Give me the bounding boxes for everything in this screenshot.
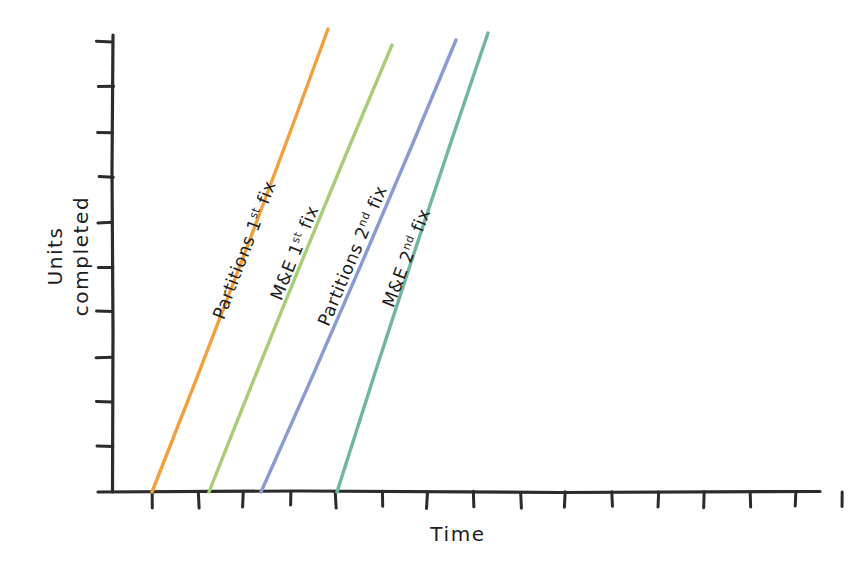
series-lines-group: [152, 29, 488, 492]
y-axis-tick: [96, 401, 112, 402]
chart-canvas: Partitions 1st fixM&E 1st fixPartitions …: [0, 0, 866, 572]
y-axis-tick: [96, 41, 112, 42]
y-axis-tick: [98, 222, 112, 223]
x-axis-tick: [198, 492, 199, 508]
y-axis-tick: [97, 311, 113, 312]
axes-group: [98, 35, 820, 493]
series-label-main: M&E: [378, 258, 414, 310]
series-label-tail: fix: [293, 203, 323, 238]
series-label-main: Partitions: [314, 234, 369, 329]
y-axis-line: [112, 35, 113, 492]
x-axis-tick: [521, 493, 522, 509]
y-axis-title-line-2: completed: [69, 196, 93, 317]
y-axis-title: Units completed: [43, 196, 93, 317]
hand-drawn-line-chart: Partitions 1st fixM&E 1st fixPartitions …: [0, 0, 866, 572]
series-label-tail: fix: [251, 178, 280, 213]
x-axis-line: [98, 491, 820, 493]
x-axis-tick: [335, 492, 336, 508]
series-label-main: Partitions: [209, 227, 261, 322]
x-axis-title: Time: [429, 522, 485, 546]
x-axis-tick: [658, 492, 659, 507]
series-label: Partitions 1st fix: [209, 178, 280, 322]
series-label-main: M&E: [266, 251, 302, 303]
series-label-tail: fix: [361, 183, 391, 218]
series-label-tail: fix: [405, 206, 434, 241]
x-axis-tick: [243, 493, 244, 507]
x-axis-tick: [564, 492, 565, 507]
x-axis-tick: [612, 492, 613, 507]
series-label-text: M&E 1st fix: [266, 203, 322, 303]
series-label-text: M&E 2nd fix: [378, 206, 434, 310]
x-axis-tick: [795, 492, 796, 506]
series-label: M&E 1st fix: [266, 203, 322, 303]
x-axis-tick: [427, 493, 428, 509]
y-axis-title-line-1: Units: [43, 226, 67, 285]
x-axis-ticks: [152, 491, 842, 508]
series-labels-group: Partitions 1st fixM&E 1st fixPartitions …: [209, 178, 435, 329]
y-axis-tick: [99, 177, 113, 178]
series-label: M&E 2nd fix: [378, 206, 434, 310]
series-label-text: Partitions 1st fix: [209, 178, 280, 322]
